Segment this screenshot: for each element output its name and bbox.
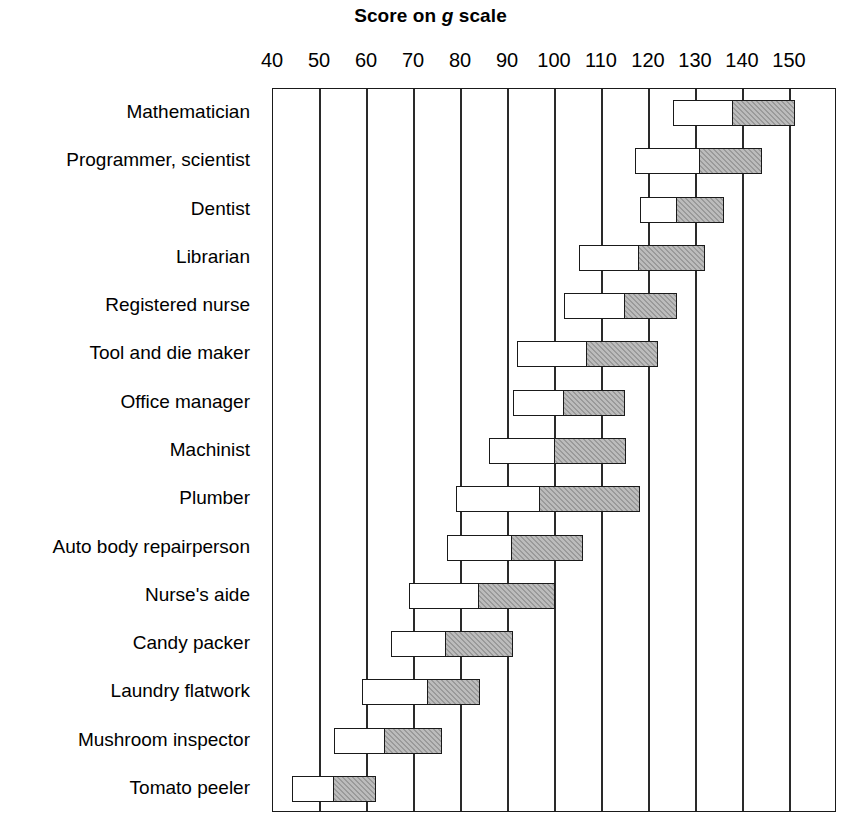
y-axis-label-9: Auto body repairperson: [0, 536, 250, 558]
chart-root: Score on g scale 40506070809010011012013…: [0, 0, 861, 822]
x-tick-label-150: 150: [765, 48, 813, 72]
bar-row: [273, 341, 835, 367]
y-axis-label-10: Nurse's aide: [0, 584, 250, 606]
bar-segment-high: [624, 293, 677, 319]
bar-segment-low: [673, 100, 734, 126]
bar-segment-low: [635, 148, 701, 174]
x-tick-label-80: 80: [436, 48, 484, 72]
chart-title: Score on g scale: [0, 5, 861, 27]
bar-row: [273, 679, 835, 705]
bar-row: [273, 148, 835, 174]
y-axis-label-13: Mushroom inspector: [0, 729, 250, 751]
y-axis-label-12: Laundry flatwork: [0, 680, 250, 702]
bar-segment-low: [640, 197, 678, 223]
bar-row: [273, 293, 835, 319]
bar-segment-high: [563, 390, 626, 416]
bar-row: [273, 728, 835, 754]
bar-segment-low: [517, 341, 588, 367]
bar-segment-low: [579, 245, 640, 271]
y-axis-label-1: Programmer, scientist: [0, 149, 250, 171]
x-axis-tick-labels: 405060708090100110120130140150: [0, 48, 861, 78]
bar-segment-low: [334, 728, 386, 754]
y-axis-label-5: Tool and die maker: [0, 342, 250, 364]
bar-row: [273, 245, 835, 271]
bar-segment-high: [638, 245, 705, 271]
x-tick-label-50: 50: [295, 48, 343, 72]
bar-segment-low: [447, 535, 513, 561]
x-tick-label-100: 100: [530, 48, 578, 72]
y-axis-label-2: Dentist: [0, 198, 250, 220]
bar-segment-high: [478, 583, 555, 609]
x-tick-label-130: 130: [671, 48, 719, 72]
bar-segment-low: [456, 486, 541, 512]
x-tick-label-110: 110: [577, 48, 625, 72]
chart-title-prefix: Score on: [354, 5, 441, 26]
bar-segment-low: [362, 679, 428, 705]
bar-row: [273, 583, 835, 609]
y-axis-label-4: Registered nurse: [0, 294, 250, 316]
y-axis-category-labels: MathematicianProgrammer, scientistDentis…: [0, 88, 262, 812]
bar-segment-low: [292, 776, 334, 802]
bar-segment-high: [384, 728, 442, 754]
bar-segment-low: [391, 631, 447, 657]
plot-area: [272, 88, 836, 812]
bar-row: [273, 631, 835, 657]
bar-segment-high: [333, 776, 377, 802]
bar-segment-high: [586, 341, 658, 367]
y-axis-label-3: Librarian: [0, 246, 250, 268]
bar-row: [273, 197, 835, 223]
y-axis-label-7: Machinist: [0, 439, 250, 461]
x-tick-label-60: 60: [342, 48, 390, 72]
bar-segment-high: [511, 535, 583, 561]
x-tick-label-120: 120: [624, 48, 672, 72]
chart-title-italic-g: g: [442, 5, 454, 26]
y-axis-label-6: Office manager: [0, 391, 250, 413]
x-tick-label-40: 40: [248, 48, 296, 72]
bar-segment-high: [699, 148, 762, 174]
y-axis-label-8: Plumber: [0, 487, 250, 509]
bar-segment-low: [513, 390, 565, 416]
chart-title-suffix: scale: [453, 5, 506, 26]
bar-segment-high: [554, 438, 626, 464]
x-tick-label-140: 140: [718, 48, 766, 72]
bar-segment-low: [489, 438, 555, 464]
bar-row: [273, 438, 835, 464]
x-tick-label-90: 90: [483, 48, 531, 72]
bar-segment-high: [732, 100, 795, 126]
bar-segment-high: [427, 679, 480, 705]
bar-row: [273, 535, 835, 561]
bar-segment-low: [409, 583, 480, 609]
bar-segment-high: [539, 486, 639, 512]
bar-row: [273, 390, 835, 416]
bar-row: [273, 776, 835, 802]
bar-segment-high: [445, 631, 512, 657]
bar-segment-low: [564, 293, 625, 319]
bar-row: [273, 100, 835, 126]
x-tick-label-70: 70: [389, 48, 437, 72]
bar-segment-high: [676, 197, 725, 223]
y-axis-label-11: Candy packer: [0, 632, 250, 654]
bar-row: [273, 486, 835, 512]
y-axis-label-14: Tomato peeler: [0, 777, 250, 799]
y-axis-label-0: Mathematician: [0, 101, 250, 123]
